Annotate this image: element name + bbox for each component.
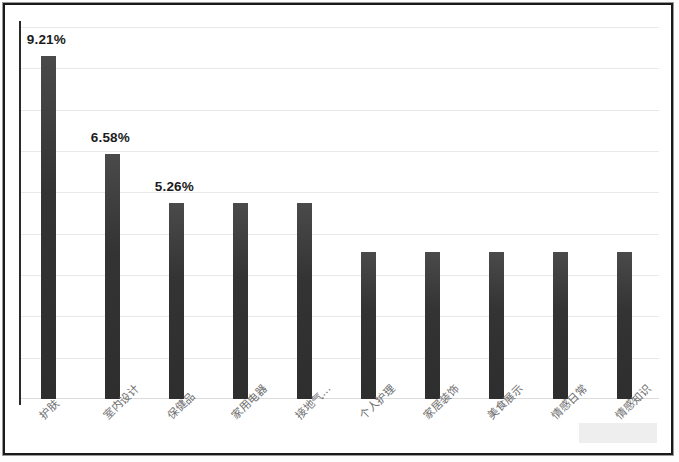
x-axis-tick-label: 护肤 — [35, 395, 62, 422]
bar-value-label: 5.26% — [155, 179, 194, 194]
x-axis-labels: 护肤室内设计保健品家用电器接地气…个人护理家居装饰美食展示情感日常情感知识 — [5, 403, 679, 462]
bar[interactable] — [297, 203, 312, 399]
bar-value-label: 9.21% — [27, 32, 66, 47]
chart-container: 9.21%6.58%5.26% 护肤室内设计保健品家用电器接地气…个人护理家居装… — [0, 0, 679, 462]
bar[interactable] — [169, 203, 184, 399]
watermark-patch — [579, 423, 657, 443]
bar-value-label: 6.58% — [91, 130, 130, 145]
bar[interactable] — [425, 252, 440, 399]
bar[interactable] — [233, 203, 248, 399]
bar[interactable] — [41, 56, 56, 399]
bar[interactable] — [489, 252, 504, 399]
bar[interactable] — [361, 252, 376, 399]
chart-frame: 9.21%6.58%5.26% 护肤室内设计保健品家用电器接地气…个人护理家居装… — [3, 3, 673, 455]
bar[interactable] — [105, 154, 120, 399]
bar[interactable] — [553, 252, 568, 399]
bar-series: 9.21%6.58%5.26% — [19, 27, 659, 399]
bar[interactable] — [617, 252, 632, 399]
